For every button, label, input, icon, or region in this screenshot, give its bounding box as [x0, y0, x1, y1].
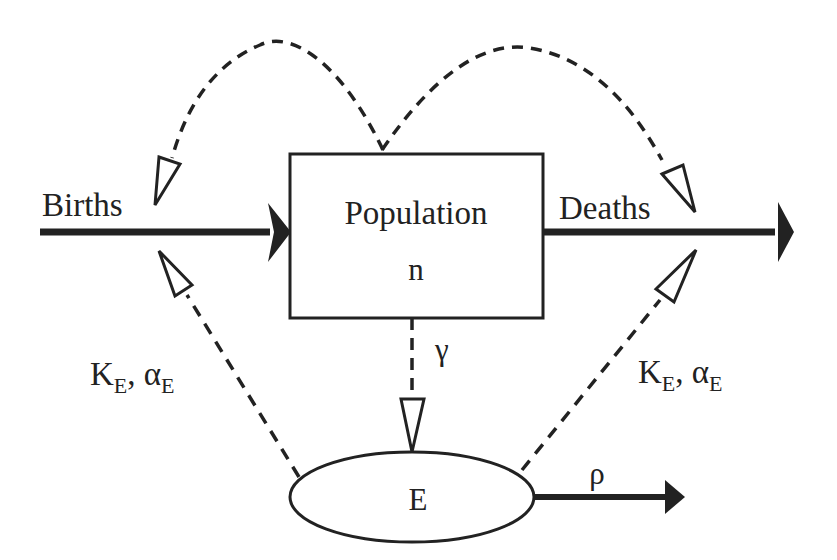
hollow-arrowhead-icon [155, 157, 180, 205]
right-k-alpha-label: KE, αE [638, 354, 723, 396]
population-symbol: n [408, 252, 424, 287]
population-title: Population [344, 195, 487, 231]
hollow-arrowhead-icon [401, 399, 424, 452]
hollow-arrowhead-icon [656, 250, 696, 302]
hollow-arrowhead-icon [662, 165, 695, 212]
e-to-births-influence [159, 251, 299, 477]
births-label: Births [42, 187, 123, 223]
population-box [290, 154, 543, 318]
rho-label: ρ [589, 456, 604, 491]
gamma-label: γ [434, 332, 449, 367]
left-k-alpha-label: KE, αE [90, 356, 175, 398]
hollow-arrowhead-icon [159, 251, 192, 296]
deaths-label: Deaths [559, 190, 651, 226]
environment-symbol: E [409, 482, 428, 517]
population-environment-diagram: Births Population n Deaths γ E ρ KE, αE [0, 0, 837, 560]
e-to-deaths-influence [522, 250, 696, 470]
rho-decay-arrow [534, 480, 685, 514]
gamma-influence [401, 318, 424, 452]
